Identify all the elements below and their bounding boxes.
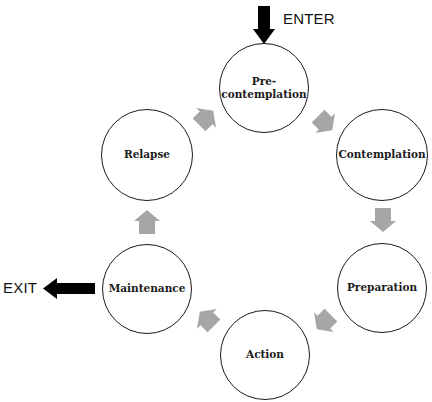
stage-preparation: Preparation <box>337 243 427 333</box>
stage-label: Pre- contemplation <box>221 75 306 101</box>
stage-label: Maintenance <box>109 282 186 295</box>
stage-label: Contemplation <box>338 148 425 161</box>
enter-label: ENTER <box>283 10 335 27</box>
stages-of-change-diagram: ENTER EXIT Pre- contemplation Contemplat… <box>0 0 432 402</box>
arrow-action-to-maintenance-icon <box>190 302 224 336</box>
enter-arrow-icon <box>253 6 275 44</box>
stage-action: Action <box>220 310 310 400</box>
stage-label: Relapse <box>124 148 170 161</box>
stage-relapse: Relapse <box>101 109 193 201</box>
stage-precontemplation: Pre- contemplation <box>219 43 309 133</box>
arrow-relapse-to-precontemplation-icon <box>189 101 223 135</box>
exit-arrow-icon <box>43 278 95 299</box>
stage-contemplation: Contemplation <box>336 109 428 201</box>
stage-maintenance: Maintenance <box>102 244 192 334</box>
arrow-contemplation-to-preparation-icon <box>370 208 396 232</box>
arrow-preparation-to-action-icon <box>307 305 341 339</box>
stage-label: Action <box>246 348 284 361</box>
stage-label: Preparation <box>347 281 417 294</box>
exit-label: EXIT <box>3 279 37 296</box>
arrow-precontemplation-to-contemplation-icon <box>308 106 342 140</box>
arrows-layer <box>0 0 432 402</box>
arrow-maintenance-to-relapse-icon <box>134 210 160 234</box>
